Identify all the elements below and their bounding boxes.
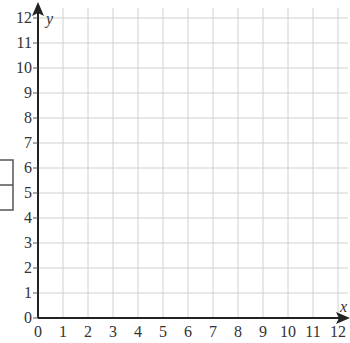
x-tick-label: 6 [184, 323, 192, 340]
y-tick-label: 6 [24, 159, 32, 176]
x-tick-label: 9 [259, 323, 267, 340]
axes [32, 2, 350, 324]
tick-labels: 00112233445566778899101011111212 [16, 9, 346, 340]
grid-lines [38, 8, 348, 318]
x-tick-label: 8 [234, 323, 242, 340]
x-tick-label: 7 [209, 323, 217, 340]
y-tick-label: 0 [24, 309, 32, 326]
y-tick-label: 11 [17, 34, 32, 51]
y-tick-label: 1 [24, 284, 32, 301]
x-tick-label: 5 [159, 323, 167, 340]
side-box [0, 160, 13, 210]
x-tick-label: 11 [305, 323, 320, 340]
y-tick-label: 3 [24, 234, 32, 251]
x-tick-label: 2 [84, 323, 92, 340]
y-tick-label: 5 [24, 184, 32, 201]
x-tick-label: 0 [34, 323, 42, 340]
x-tick-label: 12 [330, 323, 346, 340]
y-tick-label: 12 [16, 9, 32, 26]
x-axis-label: x [339, 298, 347, 315]
y-tick-label: 2 [24, 259, 32, 276]
y-tick-label: 7 [24, 134, 32, 151]
x-tick-label: 4 [134, 323, 142, 340]
y-axis-label: y [44, 10, 54, 28]
x-tick-label: 3 [109, 323, 117, 340]
coordinate-grid: 00112233445566778899101011111212 x y [0, 0, 350, 343]
y-tick-label: 8 [24, 109, 32, 126]
x-tick-label: 1 [59, 323, 67, 340]
y-tick-label: 9 [24, 84, 32, 101]
y-tick-label: 4 [24, 209, 32, 226]
y-tick-label: 10 [16, 59, 32, 76]
x-tick-label: 10 [280, 323, 296, 340]
